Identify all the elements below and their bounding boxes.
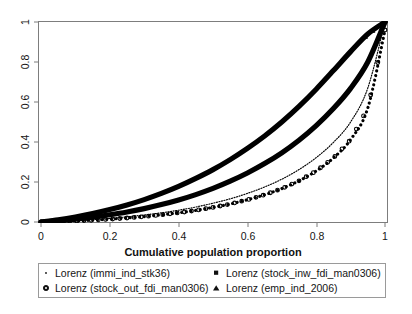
x-tick-label: 0.4: [172, 230, 187, 242]
legend-entry-stock-out-fdi-man0306[interactable]: Lorenz (stock_out_fdi_man0306): [43, 282, 208, 294]
triangle-small-icon: [213, 285, 219, 290]
curve-immi-ind-stk36: [41, 22, 385, 222]
y-tick-label: 0.2: [19, 175, 31, 190]
curve-stock-out-fdi: [41, 30, 385, 222]
x-axis-ticks: [41, 223, 385, 228]
curve-stock-inw-fdi: [41, 22, 385, 222]
y-tick-label: 0.4: [19, 135, 31, 150]
y-tick-label: 0.6: [19, 95, 31, 110]
plot-frame: [39, 22, 388, 223]
y-axis-tick-labels: 1 0.8 0.6 0.4 0.2 0: [19, 19, 31, 225]
legend-label: Lorenz (immi_ind_stk36): [55, 267, 170, 279]
legend-entry-stock-inw-fdi-man0306[interactable]: Lorenz (stock_inw_fdi_man0306): [214, 267, 381, 279]
lorenz-curve-figure: 1 0.8 0.6 0.4 0.2 0 0 0.2 0.4 0.6 0.8 1 …: [0, 0, 412, 314]
y-tick-label: 1: [19, 19, 31, 25]
x-axis-title: Cumulative population proportion: [124, 246, 301, 258]
x-tick-label: 1: [382, 230, 388, 242]
x-axis-tick-labels: 0 0.2 0.4 0.6 0.8 1: [38, 230, 388, 242]
x-tick-label: 0.8: [310, 230, 325, 242]
y-tick-label: 0.8: [19, 55, 31, 70]
x-tick-label: 0.2: [103, 230, 118, 242]
x-tick-label: 0: [38, 230, 44, 242]
y-tick-label: 0: [19, 219, 31, 225]
legend-label: Lorenz (stock_out_fdi_man0306): [55, 282, 209, 294]
y-axis-ticks: [34, 22, 39, 222]
lorenz-curves: [39, 22, 387, 224]
legend-label: Lorenz (stock_inw_fdi_man0306): [226, 267, 381, 279]
legend-entry-immi-ind-stk36[interactable]: Lorenz (immi_ind_stk36): [45, 267, 170, 279]
x-tick-label: 0.6: [241, 230, 256, 242]
dot-small-icon: [45, 272, 47, 274]
open-circle-inner-icon: [45, 287, 47, 289]
curve-emp-ind-2006: [41, 22, 385, 222]
square-small-icon: [214, 271, 218, 275]
markers-stock-out-fdi: [39, 28, 387, 224]
legend-entry-emp-ind-2006[interactable]: Lorenz (emp_ind_2006): [213, 282, 338, 294]
plot-canvas: 1 0.8 0.6 0.4 0.2 0 0 0.2 0.4 0.6 0.8 1 …: [0, 0, 412, 314]
legend-label: Lorenz (emp_ind_2006): [226, 282, 338, 294]
